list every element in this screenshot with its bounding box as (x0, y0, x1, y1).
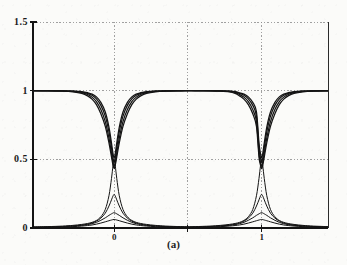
figure-caption: (a) (0, 238, 347, 250)
y-tick-label-1-5: 1.5 (0, 16, 28, 27)
y-tick-label-0-5: 0.5 (0, 153, 28, 164)
series-pass-1 (33, 159, 328, 227)
series-notch-3 (33, 91, 328, 167)
series-notch-1 (33, 91, 328, 158)
series-notch-4 (33, 91, 328, 169)
series-notch-2 (33, 91, 328, 163)
y-tick-label-0: 0 (0, 222, 28, 233)
y-tick-label-1: 1 (0, 85, 28, 96)
figure-panel: 0 0.5 1 1.5 0 1 (a) (0, 0, 347, 265)
chart-canvas (0, 0, 347, 265)
